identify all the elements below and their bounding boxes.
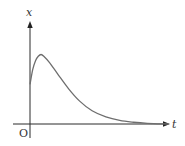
x-axis-arrow-icon bbox=[27, 21, 32, 28]
y-axis-label: x bbox=[26, 6, 33, 19]
graph-canvas: x t O bbox=[0, 0, 185, 146]
x-axis-label: t bbox=[172, 118, 177, 131]
origin-label: O bbox=[19, 127, 28, 140]
curve-x-of-t bbox=[30, 54, 168, 124]
